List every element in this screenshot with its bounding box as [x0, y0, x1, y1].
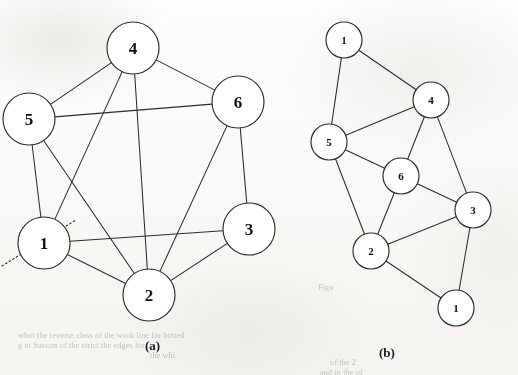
node-label: 4 — [428, 94, 434, 106]
edge-2-1 — [386, 261, 441, 298]
edge-4-6 — [156, 60, 215, 90]
node-label: 1 — [341, 34, 347, 46]
edge-6-3 — [240, 128, 247, 203]
figure-canvas: whot the reverse class of the work line … — [0, 0, 518, 375]
panel-b-caption: (b) — [379, 345, 395, 361]
node-6[interactable]: 6 — [212, 76, 264, 128]
panel-a-caption: (a) — [145, 338, 160, 354]
node-label: 6 — [398, 170, 404, 182]
edge-3-1 — [70, 231, 223, 241]
node-3[interactable]: 3 — [455, 192, 491, 228]
node-label: 3 — [470, 204, 476, 216]
edge-3-2 — [171, 243, 228, 280]
node-1[interactable]: 1 — [438, 290, 474, 326]
edge-5-6 — [345, 150, 384, 169]
node-5[interactable]: 5 — [311, 124, 347, 160]
node-3[interactable]: 3 — [223, 203, 275, 255]
node-6[interactable]: 6 — [383, 158, 419, 194]
node-2[interactable]: 2 — [353, 233, 389, 269]
node-label: 5 — [326, 136, 332, 148]
node-label: 2 — [145, 286, 154, 305]
node-label: 1 — [40, 234, 49, 253]
panel-b-node-group: 1456321 — [311, 22, 491, 326]
node-1[interactable]: 1 — [18, 217, 70, 269]
edge-4-5 — [50, 63, 111, 105]
graph-svg: 456312 1456321 — [0, 0, 518, 375]
node-2[interactable]: 2 — [123, 269, 175, 321]
node-5[interactable]: 5 — [3, 93, 55, 145]
node-label: 4 — [129, 39, 138, 58]
edge-5-4 — [346, 107, 415, 135]
edge-6-3 — [417, 184, 456, 203]
edge-4-6 — [408, 117, 425, 160]
edge-4-1 — [55, 72, 122, 220]
node-1[interactable]: 1 — [326, 22, 362, 58]
node-label: 2 — [368, 245, 374, 257]
edge-1-4 — [359, 50, 416, 90]
node-4[interactable]: 4 — [107, 22, 159, 74]
node-4[interactable]: 4 — [413, 82, 449, 118]
panel-a-node-group: 456312 — [3, 22, 275, 321]
edge-5-6 — [55, 104, 212, 117]
node-label: 3 — [245, 220, 254, 239]
edge-6-2 — [378, 193, 395, 235]
edge-1-5 — [332, 58, 342, 124]
edge-5-1 — [32, 145, 41, 217]
edge-1-2 — [67, 255, 125, 284]
edge-3-1 — [459, 228, 470, 291]
node-label: 6 — [234, 93, 243, 112]
node-label: 1 — [453, 302, 459, 314]
edge-4-2 — [135, 74, 148, 269]
node-label: 5 — [25, 110, 34, 129]
edge-3-2 — [388, 217, 457, 245]
edge-4-3 — [437, 117, 466, 193]
edge-5-2 — [335, 159, 364, 234]
